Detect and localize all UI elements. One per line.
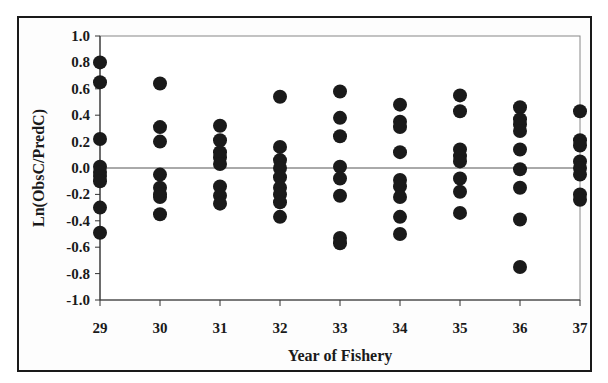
- data-point: [513, 162, 527, 176]
- data-point: [93, 55, 107, 69]
- x-axis-title: Year of Fishery: [288, 347, 393, 365]
- data-point: [573, 168, 587, 182]
- data-point: [333, 111, 347, 125]
- data-point: [93, 75, 107, 89]
- y-tick-label: -0.6: [66, 239, 90, 255]
- y-tick-label: -1.0: [66, 292, 90, 308]
- x-tick-label: 36: [513, 320, 529, 336]
- data-point: [513, 260, 527, 274]
- data-point: [333, 172, 347, 186]
- data-point: [273, 210, 287, 224]
- data-point: [453, 154, 467, 168]
- data-point: [393, 98, 407, 112]
- data-point: [513, 143, 527, 157]
- x-tick-label: 37: [573, 320, 589, 336]
- x-tick-label: 30: [153, 320, 168, 336]
- data-point: [513, 181, 527, 195]
- data-point: [333, 129, 347, 143]
- data-point: [513, 212, 527, 226]
- x-tick-label: 32: [273, 320, 288, 336]
- y-tick-label: 0.6: [71, 81, 90, 97]
- data-point: [153, 77, 167, 91]
- scatter-chart: 1.00.80.60.40.20.0-0.2-0.4-0.6-0.8-1.0 2…: [0, 0, 608, 383]
- data-point: [453, 88, 467, 102]
- data-point: [93, 132, 107, 146]
- data-point: [153, 190, 167, 204]
- data-point: [573, 193, 587, 207]
- data-point: [93, 201, 107, 215]
- data-point: [153, 135, 167, 149]
- data-point: [273, 90, 287, 104]
- data-point: [393, 145, 407, 159]
- data-point: [93, 174, 107, 188]
- data-point: [573, 139, 587, 153]
- data-point: [333, 189, 347, 203]
- data-point: [153, 120, 167, 134]
- x-axis: 293031323334353637: [93, 300, 589, 336]
- data-point: [453, 185, 467, 199]
- data-point: [393, 210, 407, 224]
- data-point: [213, 157, 227, 171]
- data-point: [393, 227, 407, 241]
- y-tick-label: 0.0: [71, 160, 90, 176]
- data-point: [453, 172, 467, 186]
- y-tick-label: -0.2: [66, 186, 90, 202]
- x-tick-label: 34: [393, 320, 409, 336]
- data-point: [573, 104, 587, 118]
- x-tick-label: 33: [333, 320, 348, 336]
- data-point: [333, 236, 347, 250]
- data-point: [273, 140, 287, 154]
- data-point: [453, 104, 467, 118]
- data-point: [393, 190, 407, 204]
- x-tick-label: 31: [213, 320, 228, 336]
- data-point: [393, 120, 407, 134]
- y-tick-label: 0.4: [71, 107, 90, 123]
- data-point: [453, 206, 467, 220]
- data-point: [153, 168, 167, 182]
- data-point: [213, 119, 227, 133]
- data-point: [213, 197, 227, 211]
- data-point: [153, 207, 167, 221]
- data-point: [333, 84, 347, 98]
- y-axis-title: Ln(ObsC/PredC): [30, 109, 48, 227]
- x-tick-label: 29: [93, 320, 108, 336]
- data-point: [93, 226, 107, 240]
- data-point: [273, 195, 287, 209]
- y-tick-label: -0.4: [66, 213, 90, 229]
- y-tick-label: 0.8: [71, 54, 90, 70]
- x-tick-label: 35: [453, 320, 468, 336]
- y-tick-label: -0.8: [66, 266, 90, 282]
- y-tick-label: 0.2: [71, 134, 90, 150]
- y-tick-label: 1.0: [71, 28, 90, 44]
- data-point: [513, 124, 527, 138]
